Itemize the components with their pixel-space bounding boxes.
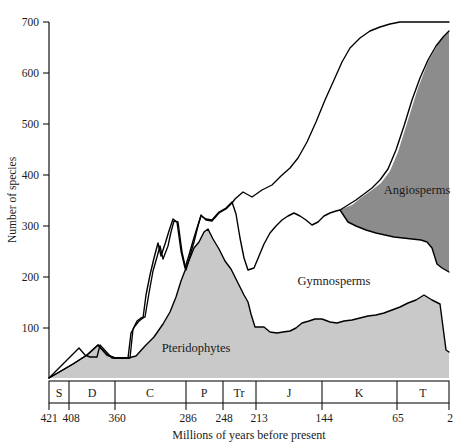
- y-axis-title: Number of species: [6, 156, 19, 243]
- period-label-t: T: [419, 386, 427, 400]
- period-label-c: C: [146, 386, 154, 400]
- angiosperms-label: Angiosperms: [384, 183, 451, 197]
- gymnosperms-label: Gymnosperms: [298, 274, 371, 288]
- x-tick-label-2: 2: [447, 412, 453, 424]
- y-tick-label-500: 500: [22, 118, 40, 130]
- x-tick-label-248: 248: [215, 412, 233, 424]
- x-tick-label-286: 286: [179, 412, 197, 424]
- x-axis-title: Millions of years before present: [172, 428, 326, 442]
- chart-figure: 700 600 500 400 300 200 100 Number of sp…: [0, 0, 464, 444]
- x-tick-label-65: 65: [392, 412, 404, 424]
- y-tick-label-700: 700: [22, 16, 40, 28]
- x-tick-label-421: 421: [40, 412, 58, 424]
- period-label-k: K: [355, 386, 364, 400]
- x-tick-label-213: 213: [250, 412, 268, 424]
- period-label-j: J: [287, 386, 292, 400]
- y-tick-label-100: 100: [22, 322, 40, 334]
- y-tick-label-400: 400: [22, 169, 40, 181]
- pteridophytes-label: Pteridophytes: [162, 341, 231, 355]
- period-label-tr: Tr: [234, 386, 245, 400]
- period-label-s: S: [56, 386, 63, 400]
- period-label-p: P: [201, 386, 208, 400]
- y-tick-label-600: 600: [22, 67, 40, 79]
- x-tick-label-360: 360: [108, 412, 126, 424]
- chart-svg: 700 600 500 400 300 200 100 Number of sp…: [0, 0, 464, 444]
- x-tick-label-408: 408: [62, 412, 80, 424]
- y-tick-label-200: 200: [22, 271, 40, 283]
- y-tick-label-300: 300: [22, 220, 40, 232]
- period-label-d: D: [88, 386, 97, 400]
- x-tick-label-144: 144: [315, 412, 333, 424]
